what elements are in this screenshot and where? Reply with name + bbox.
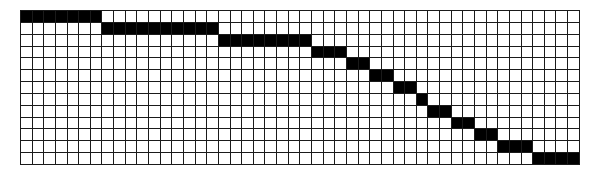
grid-cell [404, 117, 416, 129]
grid-cell [555, 93, 567, 105]
grid-cell [195, 34, 207, 46]
grid-cell [90, 46, 102, 58]
filled-cell [183, 22, 195, 34]
grid-cell [183, 81, 195, 93]
filled-cell [311, 46, 323, 58]
grid-cell [555, 10, 567, 22]
grid-cell [346, 140, 358, 152]
grid-cell [404, 10, 416, 22]
grid-cell [474, 69, 486, 81]
grid-cell [171, 128, 183, 140]
grid-cell [427, 128, 439, 140]
grid-cell [416, 128, 428, 140]
grid-cell [218, 117, 230, 129]
grid-cell [416, 10, 428, 22]
grid-cell [241, 46, 253, 58]
grid-cell [20, 81, 32, 93]
grid-cell [462, 105, 474, 117]
grid-cell [416, 34, 428, 46]
grid-cell [148, 140, 160, 152]
grid-cell [299, 105, 311, 117]
grid-cell [521, 69, 533, 81]
grid-cell [544, 105, 556, 117]
grid-cell [474, 93, 486, 105]
grid-cell [148, 69, 160, 81]
grid-cell [276, 10, 288, 22]
grid-cell [381, 22, 393, 34]
grid-cell [136, 152, 148, 164]
grid-cell [160, 10, 172, 22]
grid-cell [497, 57, 509, 69]
grid-cell [462, 46, 474, 58]
grid-cell [299, 128, 311, 140]
grid-cell [451, 57, 463, 69]
grid-cell [416, 46, 428, 58]
grid-cell [43, 140, 55, 152]
grid-cell [323, 93, 335, 105]
grid-cell [427, 10, 439, 22]
grid-cell [567, 10, 579, 22]
grid-cell [230, 128, 242, 140]
grid-cell [521, 152, 533, 164]
grid-cell [381, 117, 393, 129]
grid-cell [264, 57, 276, 69]
grid-cell [20, 69, 32, 81]
grid-cell [195, 152, 207, 164]
grid-cell [334, 57, 346, 69]
grid-cell [462, 93, 474, 105]
grid-cell [90, 81, 102, 93]
grid-cell [299, 10, 311, 22]
grid-cell [311, 140, 323, 152]
grid-cell [323, 69, 335, 81]
grid-cell [439, 81, 451, 93]
grid-cell [311, 128, 323, 140]
grid-cell [451, 105, 463, 117]
grid-cell [544, 81, 556, 93]
grid-cell [288, 140, 300, 152]
grid-cell [439, 152, 451, 164]
grid-cell [67, 128, 79, 140]
grid-cell [311, 10, 323, 22]
grid-cell [439, 46, 451, 58]
grid-cell [497, 117, 509, 129]
filled-cell [101, 22, 113, 34]
filled-cell [544, 152, 556, 164]
grid-cell [427, 22, 439, 34]
grid-cell [346, 152, 358, 164]
grid-cell [369, 117, 381, 129]
grid-cell [171, 81, 183, 93]
grid-cell [241, 140, 253, 152]
grid-cell [160, 140, 172, 152]
grid-cell [393, 69, 405, 81]
grid-cell [148, 57, 160, 69]
grid-cell [276, 93, 288, 105]
grid-cell [346, 81, 358, 93]
grid-cell [264, 93, 276, 105]
filled-cell [393, 81, 405, 93]
grid-cell [206, 57, 218, 69]
grid-cell [160, 128, 172, 140]
grid-cell [346, 117, 358, 129]
grid-cell [32, 46, 44, 58]
grid-cell [358, 10, 370, 22]
grid-cell [497, 93, 509, 105]
grid-cell [43, 46, 55, 58]
grid-cell [521, 46, 533, 58]
filled-cell [113, 22, 125, 34]
grid-cell [183, 34, 195, 46]
grid-cell [544, 22, 556, 34]
filled-cell [43, 10, 55, 22]
grid-cell [90, 140, 102, 152]
grid-cell [113, 69, 125, 81]
filled-cell [230, 34, 242, 46]
grid-cell [555, 117, 567, 129]
grid-cell [195, 128, 207, 140]
grid-cell [136, 81, 148, 93]
grid-cell [346, 105, 358, 117]
grid-cell [218, 57, 230, 69]
grid-cell [486, 105, 498, 117]
grid-cell [218, 69, 230, 81]
grid-cell [311, 34, 323, 46]
filled-cell [497, 140, 509, 152]
grid-cell [299, 140, 311, 152]
